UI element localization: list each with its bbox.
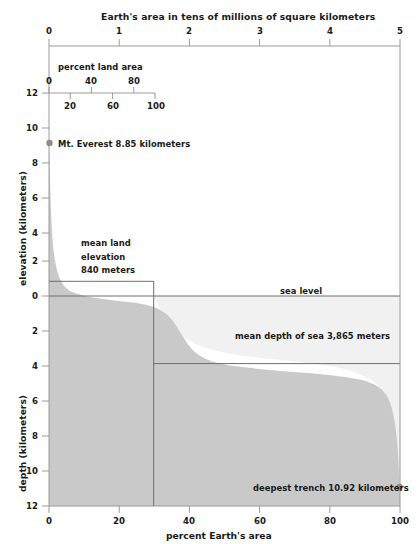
mean-land-line-2: elevation bbox=[81, 251, 135, 265]
elev-tick-12: 12 bbox=[16, 88, 38, 98]
mean-land-line-1: mean land bbox=[81, 237, 135, 251]
inset-tick-40: 40 bbox=[81, 76, 101, 86]
left-axis-ticks bbox=[42, 93, 49, 506]
depth-tick-12: 12 bbox=[14, 501, 38, 511]
top-tick-0: 0 bbox=[39, 26, 59, 36]
elev-tick-10: 10 bbox=[16, 123, 38, 133]
inset-tick-60: 60 bbox=[103, 101, 123, 111]
bottom-tick-60: 60 bbox=[250, 516, 270, 526]
depth-tick-2: 2 bbox=[16, 326, 38, 336]
mean-depth-annotation: mean depth of sea 3,865 meters bbox=[235, 331, 390, 341]
x-axis-label: percent Earth's area bbox=[166, 530, 272, 541]
mean-land-line-3: 840 meters bbox=[81, 264, 135, 278]
mean-land-elevation-annotation: mean land elevation 840 meters bbox=[81, 237, 135, 278]
inset-tick-80: 80 bbox=[124, 76, 144, 86]
top-tick-3: 3 bbox=[250, 26, 270, 36]
top-tick-1: 1 bbox=[109, 26, 129, 36]
elevation-axis-label: elevation (kilometers) bbox=[17, 171, 28, 286]
top-tick-2: 2 bbox=[179, 26, 199, 36]
top-axis-ticks bbox=[49, 39, 400, 46]
mt-everest-annotation: Mt. Everest 8.85 kilometers bbox=[58, 139, 190, 149]
percent-land-area-label: percent land area bbox=[58, 62, 143, 72]
inset-tick-0: 0 bbox=[39, 76, 59, 86]
bottom-tick-40: 40 bbox=[179, 516, 199, 526]
top-tick-5: 5 bbox=[390, 26, 410, 36]
chart-canvas bbox=[0, 0, 420, 544]
bottom-tick-20: 20 bbox=[109, 516, 129, 526]
deepest-trench-annotation: deepest trench 10.92 kilometers bbox=[253, 483, 409, 493]
elev-tick-0: 0 bbox=[16, 291, 38, 301]
inset-tick-20: 20 bbox=[60, 101, 80, 111]
bottom-tick-100: 100 bbox=[389, 516, 411, 526]
depth-tick-4: 4 bbox=[16, 361, 38, 371]
depth-axis-label: depth (kilometers) bbox=[17, 395, 28, 492]
bottom-axis-ticks bbox=[49, 506, 400, 513]
inset-percent-land-axis bbox=[49, 87, 155, 99]
elev-tick-8: 8 bbox=[16, 158, 38, 168]
top-tick-4: 4 bbox=[320, 26, 340, 36]
bottom-tick-0: 0 bbox=[39, 516, 59, 526]
hypsographic-curve-chart: Earth's area in tens of millions of squa… bbox=[0, 0, 420, 544]
mt-everest-marker-icon bbox=[46, 140, 52, 146]
bottom-tick-80: 80 bbox=[320, 516, 340, 526]
chart-title: Earth's area in tens of millions of squa… bbox=[101, 11, 375, 22]
inset-tick-100: 100 bbox=[145, 101, 167, 111]
sea-level-annotation: sea level bbox=[280, 286, 322, 296]
